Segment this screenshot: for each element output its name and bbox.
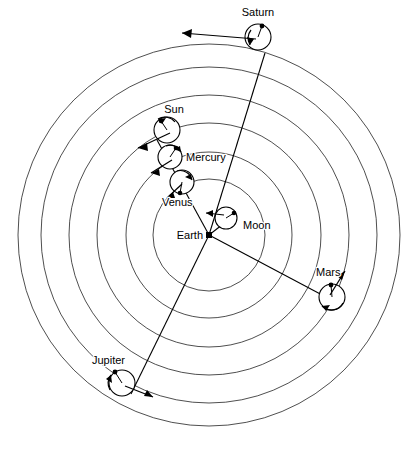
planetary-diagram: Saturn Sun Mercury	[0, 0, 415, 451]
earth-label: Earth	[177, 229, 203, 241]
mars-body-dot	[329, 283, 334, 288]
body-moon[interactable]: Moon	[206, 207, 271, 231]
body-saturn[interactable]: Saturn	[182, 6, 274, 50]
sun-label: Sun	[164, 103, 184, 115]
moon-label: Moon	[243, 219, 271, 231]
geocentric-orbit-svg: Saturn Sun Mercury	[0, 0, 415, 451]
saturn-body-dot	[260, 24, 265, 29]
venus-label: Venus	[162, 196, 193, 208]
mars-label: Mars	[316, 266, 341, 278]
sight-line-saturn	[209, 53, 265, 235]
saturn-motion-arrowhead	[182, 29, 192, 38]
jupiter-label: Jupiter	[92, 354, 125, 366]
earth-body-dot	[206, 232, 212, 238]
moon-motion-arrowhead	[206, 210, 213, 217]
jupiter-body-dot	[113, 370, 118, 375]
venus-body-dot	[178, 191, 183, 196]
mercury-label: Mercury	[186, 151, 226, 163]
sight-line-jupiter	[131, 235, 209, 394]
saturn-label: Saturn	[242, 6, 274, 18]
body-jupiter[interactable]: Jupiter	[92, 354, 153, 397]
body-mars[interactable]: Mars	[316, 266, 345, 311]
moon-body-dot	[232, 211, 237, 216]
body-venus[interactable]: Venus	[162, 170, 194, 208]
jupiter-motion-arrowhead	[144, 390, 153, 397]
